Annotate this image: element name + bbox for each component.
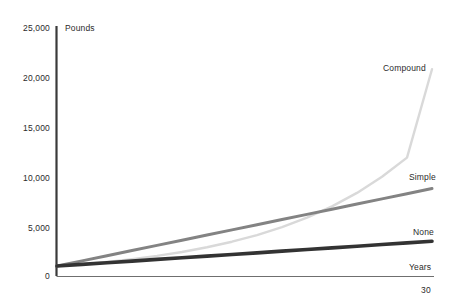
y-tick-label-10000: 10,000 — [0, 174, 50, 183]
y-tick-label-0: 0 — [0, 272, 50, 281]
series-label-compound: Compound — [383, 64, 426, 73]
series-line-compound — [57, 69, 432, 266]
y-tick-label-20000: 20,000 — [0, 74, 50, 83]
x-axis-title: Years — [409, 263, 431, 272]
x-tick-label-30: 30 — [421, 286, 431, 295]
y-tick-label-25000: 25,000 — [0, 24, 50, 33]
series-label-simple: Simple — [409, 173, 436, 182]
y-tick-label-15000: 15,000 — [0, 124, 50, 133]
y-axis-title: Pounds — [65, 24, 95, 33]
chart-plot-area — [0, 0, 453, 304]
y-tick-label-5000: 5,000 — [0, 224, 50, 233]
series-label-none: None — [413, 228, 434, 237]
chart-container: 25,000 20,000 15,000 10,000 5,000 0 Poun… — [0, 0, 453, 304]
